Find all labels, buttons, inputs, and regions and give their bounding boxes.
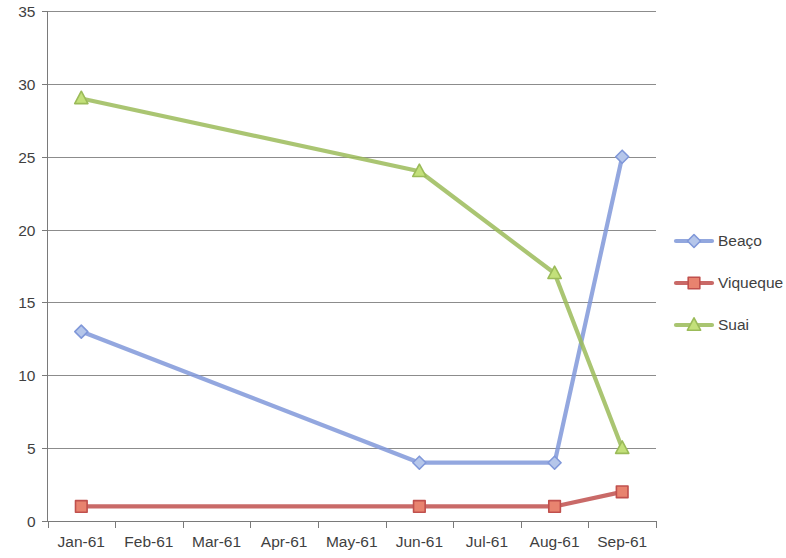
x-axis-tick-label: Jan-61 xyxy=(58,533,105,550)
legend-marker-icon xyxy=(688,277,700,289)
y-axis-tick-label: 5 xyxy=(27,440,36,457)
y-axis-tick-label: 30 xyxy=(18,76,36,93)
data-point-marker xyxy=(76,501,88,513)
chart-background xyxy=(0,0,786,558)
legend-item-label: Suai xyxy=(718,316,749,333)
x-axis-tick-label: Jun-61 xyxy=(396,533,443,550)
x-axis-tick-label: May-61 xyxy=(326,533,378,550)
line-chart: 05101520253035 Jan-61Feb-61Mar-61Apr-61M… xyxy=(0,0,786,558)
x-axis-tick-labels: Jan-61Feb-61Mar-61Apr-61May-61Jun-61Jul-… xyxy=(58,533,648,550)
y-axis-tick-label: 15 xyxy=(18,294,35,311)
data-point-marker xyxy=(616,486,628,498)
x-axis-tick-label: Mar-61 xyxy=(192,533,241,550)
y-axis-tick-label: 35 xyxy=(18,3,35,20)
y-axis-tick-label: 10 xyxy=(18,367,36,384)
chart-canvas: 05101520253035 Jan-61Feb-61Mar-61Apr-61M… xyxy=(0,0,786,558)
x-axis-tick-label: Aug-61 xyxy=(530,533,580,550)
y-axis-tick-label: 0 xyxy=(27,513,36,530)
y-axis-tick-label: 20 xyxy=(18,222,36,239)
legend-item-viqueque[interactable]: Viqueque xyxy=(676,274,783,291)
legend-item-label: Viqueque xyxy=(718,274,783,291)
x-axis-tick-label: Sep-61 xyxy=(597,533,647,550)
x-axis-tick-label: Feb-61 xyxy=(124,533,173,550)
y-axis-tick-label: 25 xyxy=(18,149,35,166)
x-axis-tick-label: Apr-61 xyxy=(261,533,308,550)
legend-item-label: Beaço xyxy=(718,232,762,249)
data-point-marker xyxy=(414,501,426,513)
x-axis-tick-label: Jul-61 xyxy=(466,533,508,550)
data-point-marker xyxy=(549,501,561,513)
